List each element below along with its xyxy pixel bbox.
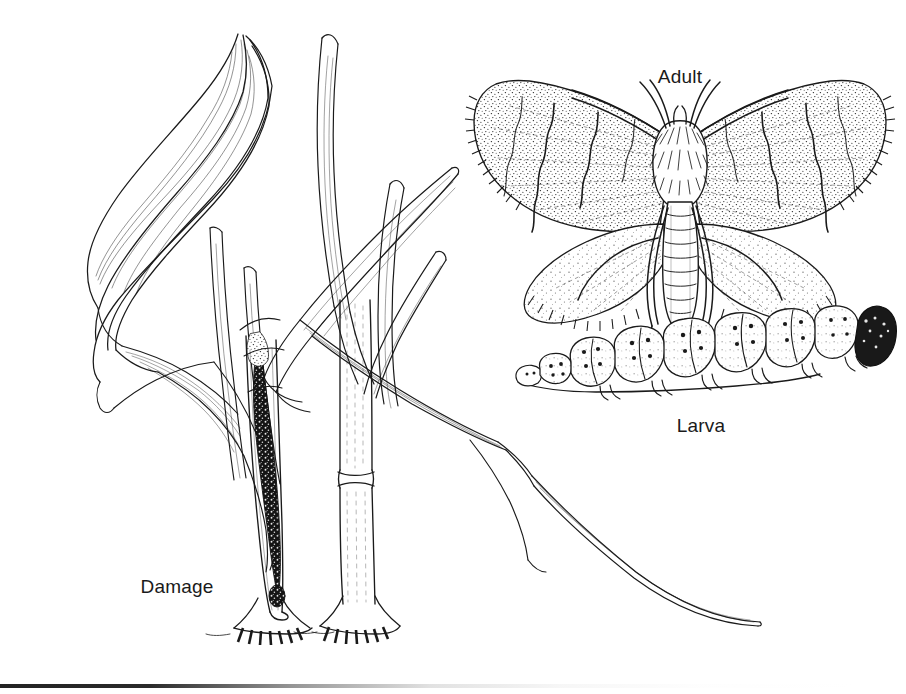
panel-label-larva: Larva <box>677 415 726 437</box>
panel-label-damage: Damage <box>140 576 213 598</box>
panel-label-adult: Adult <box>658 66 702 88</box>
adult-moth-artwork <box>465 80 895 336</box>
figure-artwork <box>0 0 906 694</box>
illustration-plate: Adult Larva Damage <box>0 0 906 694</box>
bottom-divider-rule <box>0 684 906 688</box>
